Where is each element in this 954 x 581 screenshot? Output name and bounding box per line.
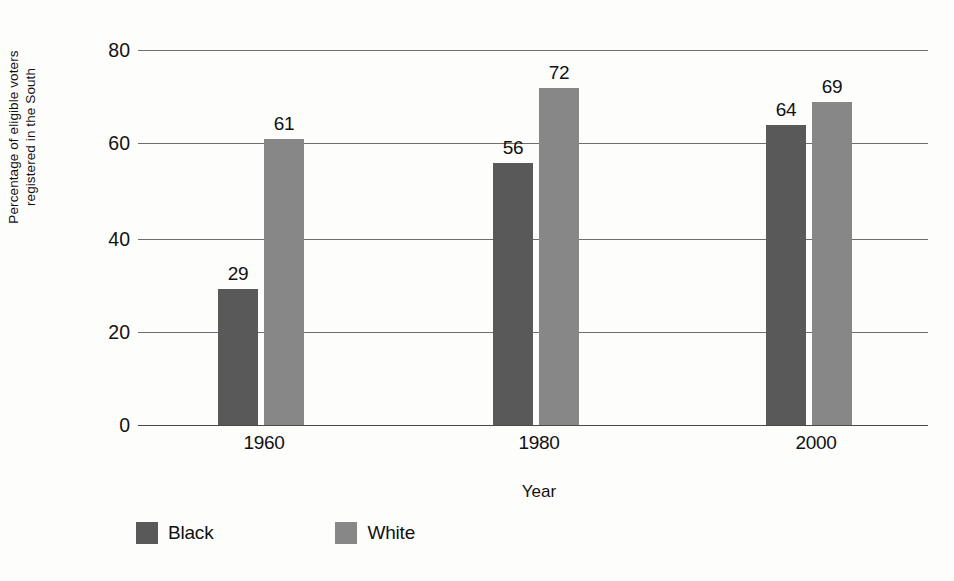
y-tick-label-60: 60 bbox=[86, 132, 130, 155]
bar-value-white-1980: 72 bbox=[529, 62, 589, 84]
legend-label-white: White bbox=[367, 522, 415, 544]
bar-value-black-1960: 29 bbox=[208, 263, 268, 285]
legend-swatch-black-icon bbox=[136, 522, 158, 544]
y-tick-label-0: 0 bbox=[86, 414, 130, 437]
x-axis-title: Year bbox=[0, 482, 954, 502]
x-tick-label-2000: 2000 bbox=[756, 432, 876, 454]
x-tick-label-1980: 1980 bbox=[479, 432, 599, 454]
bar-black-2000 bbox=[766, 125, 806, 425]
y-tick-label-20: 20 bbox=[86, 321, 130, 344]
legend-item-black: Black bbox=[136, 522, 213, 544]
y-tick-label-40: 40 bbox=[86, 228, 130, 251]
y-tick-label-80: 80 bbox=[86, 39, 130, 62]
gridline-40 bbox=[138, 239, 928, 240]
bar-white-1960 bbox=[264, 139, 304, 425]
bar-value-white-2000: 69 bbox=[802, 76, 862, 98]
legend-item-white: White bbox=[335, 522, 415, 544]
legend-swatch-white-icon bbox=[335, 522, 357, 544]
plot-area: 29 61 56 72 64 69 bbox=[138, 50, 928, 425]
bar-white-2000 bbox=[812, 102, 852, 425]
y-axis-title-line-1: Percentage of eligible voters bbox=[5, 0, 22, 307]
gridline-0-baseline bbox=[138, 425, 928, 426]
bar-white-1980 bbox=[539, 88, 579, 425]
bar-chart-figure: 80 60 40 20 0 Percentage of eligible vot… bbox=[0, 0, 954, 581]
y-axis-title-line-2: registered in the South bbox=[22, 0, 39, 307]
x-tick-label-1960: 1960 bbox=[204, 432, 324, 454]
bar-black-1980 bbox=[493, 163, 533, 425]
bar-value-black-2000: 64 bbox=[756, 99, 816, 121]
y-axis-title: Percentage of eligible voters registered… bbox=[5, 0, 39, 307]
x-axis-title-text: Year bbox=[522, 482, 556, 502]
chart-legend: Black White bbox=[136, 522, 537, 544]
bar-value-white-1960: 61 bbox=[254, 113, 314, 135]
legend-label-black: Black bbox=[168, 522, 213, 544]
bar-value-black-1980: 56 bbox=[483, 137, 543, 159]
bar-black-1960 bbox=[218, 289, 258, 425]
gridline-80 bbox=[138, 50, 928, 51]
